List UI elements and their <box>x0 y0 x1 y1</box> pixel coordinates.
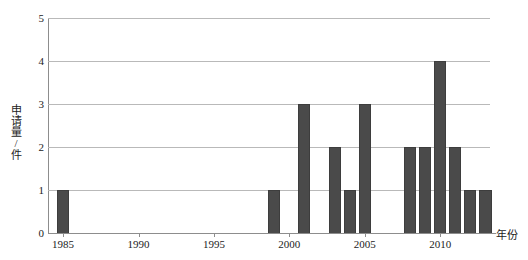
y-tick-label: 4 <box>18 56 44 67</box>
x-axis-label: 年份 <box>496 226 518 242</box>
bar <box>464 190 476 233</box>
x-tick-label: 2000 <box>267 238 311 251</box>
bar <box>298 104 310 233</box>
x-tick-label: 1985 <box>41 238 85 251</box>
x-tick-mark <box>440 233 441 237</box>
gridline-y-3 <box>48 104 490 105</box>
x-tick-mark <box>365 233 366 237</box>
x-tick-label: 2010 <box>418 238 462 251</box>
x-tick-label: 2005 <box>343 238 387 251</box>
bar <box>419 147 431 233</box>
bar <box>479 190 491 233</box>
gridline-y-4 <box>48 61 490 62</box>
bar <box>434 61 446 233</box>
bar <box>344 190 356 233</box>
y-tick-label: 5 <box>18 13 44 24</box>
bar <box>329 147 341 233</box>
x-tick-mark <box>63 233 64 237</box>
bar <box>404 147 416 233</box>
x-tick-mark <box>214 233 215 237</box>
x-tick-mark <box>139 233 140 237</box>
bar <box>268 190 280 233</box>
x-axis-line <box>48 233 490 234</box>
bar <box>57 190 69 233</box>
y-tick-label: 1 <box>18 185 44 196</box>
y-axis-label: 申请量/件 <box>6 104 22 160</box>
x-tick-mark <box>289 233 290 237</box>
bar-chart: 012345 198519901995200020052010 申请量/件 年份 <box>0 0 528 260</box>
gridline-y-5 <box>48 18 490 19</box>
plot-area <box>48 18 490 233</box>
bar <box>359 104 371 233</box>
x-tick-label: 1990 <box>117 238 161 251</box>
bar <box>449 147 461 233</box>
x-tick-label: 1995 <box>192 238 236 251</box>
